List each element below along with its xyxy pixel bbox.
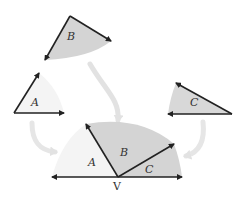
vertex-label: V bbox=[112, 180, 122, 193]
angle-c: C bbox=[168, 83, 232, 114]
flow-arrow-c bbox=[186, 122, 203, 156]
flow-arrow-b bbox=[90, 64, 118, 120]
combined-label-b: B bbox=[119, 146, 128, 159]
sector-b: B bbox=[45, 16, 111, 60]
flow-arrow-a bbox=[32, 123, 55, 152]
combined-label-c: C bbox=[145, 163, 154, 176]
angle-sum-diagram: B A C A B C V bbox=[0, 0, 247, 197]
diagram-canvas: B A C A B C V bbox=[0, 0, 247, 197]
label-b: B bbox=[66, 30, 75, 43]
combined-angles: A B C V bbox=[52, 122, 182, 193]
label-c: C bbox=[190, 96, 199, 109]
label-a: A bbox=[30, 96, 39, 109]
combined-label-a: A bbox=[87, 156, 96, 169]
angle-a: A bbox=[14, 73, 64, 113]
